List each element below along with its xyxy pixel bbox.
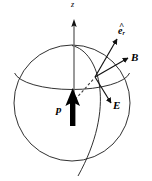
electric-field-arrow (95, 77, 111, 103)
dipole-arrow (65, 88, 80, 126)
meridian-ellipse (72, 46, 100, 177)
equator-ellipse (15, 73, 130, 90)
figure-canvas (0, 0, 152, 181)
electric-field-label: E (113, 100, 120, 111)
radial-unit-vector-label: ^er (118, 26, 125, 36)
unit-vector-hat: ^ (119, 22, 124, 31)
dipole-moment-label: p (56, 104, 62, 115)
dipole-radiation-figure: z ^er B E p (0, 0, 152, 181)
z-axis-label: z (71, 1, 74, 9)
magnetic-field-label: B (131, 52, 138, 63)
